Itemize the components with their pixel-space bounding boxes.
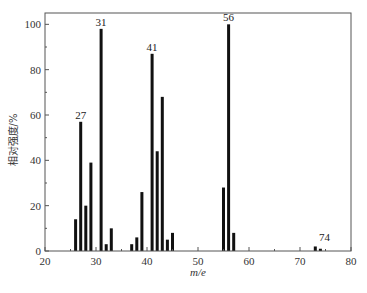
peak-label-27: 27 bbox=[75, 109, 87, 121]
bars bbox=[74, 24, 322, 251]
bar-mz-42 bbox=[156, 151, 159, 251]
bar-mz-38 bbox=[135, 237, 138, 251]
bar-mz-57 bbox=[232, 233, 235, 251]
peak-labels: 2731415674 bbox=[75, 11, 330, 242]
x-axis-label: m/e bbox=[190, 266, 206, 278]
bar-mz-41 bbox=[151, 54, 154, 251]
x-tick-label: 80 bbox=[346, 255, 358, 267]
x-tick-label: 60 bbox=[244, 255, 256, 267]
bar-mz-56 bbox=[227, 24, 230, 251]
bar-mz-28 bbox=[84, 206, 87, 251]
y-tick-label: 100 bbox=[25, 18, 42, 30]
peak-label-56: 56 bbox=[223, 11, 235, 23]
bar-mz-27 bbox=[79, 122, 82, 251]
bar-mz-26 bbox=[74, 219, 77, 251]
y-tick-label: 80 bbox=[30, 64, 42, 76]
y-tick-label: 40 bbox=[30, 154, 42, 166]
bar-mz-37 bbox=[130, 244, 133, 251]
bar-mz-33 bbox=[110, 228, 113, 251]
y-tick-label: 60 bbox=[30, 109, 42, 121]
peak-label-41: 41 bbox=[147, 41, 158, 53]
y-axis-label: 相对强度/% bbox=[7, 114, 19, 167]
bar-mz-55 bbox=[222, 188, 225, 251]
x-tick-label: 30 bbox=[91, 255, 103, 267]
x-tick-label: 40 bbox=[142, 255, 154, 267]
bar-mz-45 bbox=[171, 233, 174, 251]
bar-mz-32 bbox=[105, 244, 108, 251]
bar-mz-73 bbox=[314, 246, 317, 251]
x-tick-label: 20 bbox=[40, 255, 52, 267]
bar-mz-44 bbox=[166, 240, 169, 251]
peak-label-74: 74 bbox=[319, 231, 331, 243]
peak-label-31: 31 bbox=[96, 16, 107, 28]
x-tick-label: 70 bbox=[295, 255, 307, 267]
bar-mz-29 bbox=[89, 163, 92, 251]
bar-mz-31 bbox=[100, 29, 103, 251]
bar-mz-39 bbox=[140, 192, 143, 251]
y-tick-label: 0 bbox=[36, 245, 42, 257]
mass-spectrum-chart: 20304050607080 020406080100 2731415674 m… bbox=[0, 0, 367, 293]
bar-mz-43 bbox=[161, 97, 164, 251]
y-tick-label: 20 bbox=[30, 200, 42, 212]
